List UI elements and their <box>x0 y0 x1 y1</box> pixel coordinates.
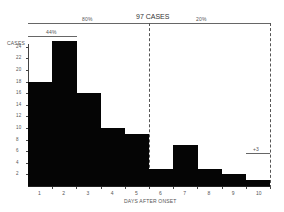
bar-day-6 <box>149 169 174 186</box>
x-tick <box>270 187 271 189</box>
bar-day-4 <box>101 128 126 186</box>
span-arrow-44 <box>28 36 77 37</box>
y-tick <box>26 47 29 48</box>
pct-80-label: 80% <box>82 16 93 22</box>
pct-44-label: 44% <box>46 29 57 35</box>
x-tick-label: 5 <box>135 190 138 196</box>
divider-right <box>270 23 271 188</box>
x-axis-label: DAYS AFTER ONSET <box>124 198 177 204</box>
y-tick-label: 6 <box>16 148 19 153</box>
histogram-chart: 80% 97 CASES 20% 44% +3 CASES DAYS AFTER… <box>0 0 284 212</box>
y-tick-label: 22 <box>16 55 21 60</box>
y-tick-label: 20 <box>16 67 21 72</box>
bar-day-3 <box>76 93 101 186</box>
extra-arrow <box>246 153 270 154</box>
bar-day-2 <box>52 41 77 186</box>
x-tick <box>222 187 223 189</box>
span-arrow-80 <box>28 23 149 24</box>
x-tick-label: 8 <box>208 190 211 196</box>
y-tick-label: 16 <box>16 90 21 95</box>
x-tick <box>149 187 150 189</box>
x-tick <box>197 187 198 189</box>
x-tick-label: 10 <box>256 190 262 196</box>
y-tick-label: 4 <box>16 160 19 165</box>
bar-day-10 <box>246 180 271 186</box>
extra-cases-label: +3 <box>253 146 259 152</box>
y-tick-label: 12 <box>16 113 21 118</box>
y-tick-label: 24 <box>16 44 21 49</box>
x-tick <box>101 187 102 189</box>
x-tick-label: 6 <box>159 190 162 196</box>
y-tick-label: 14 <box>16 102 21 107</box>
x-tick-label: 4 <box>111 190 114 196</box>
x-tick-label: 1 <box>38 190 41 196</box>
y-tick-label: 2 <box>16 171 19 176</box>
x-tick-label: 3 <box>87 190 90 196</box>
x-tick <box>76 187 77 189</box>
x-tick-label: 7 <box>183 190 186 196</box>
x-tick-label: 2 <box>62 190 65 196</box>
chart-title: 97 CASES <box>136 13 169 20</box>
y-tick <box>26 70 29 71</box>
bar-day-1 <box>28 82 53 186</box>
bar-day-9 <box>222 174 247 186</box>
x-tick <box>52 187 53 189</box>
x-tick <box>125 187 126 189</box>
y-tick-label: 8 <box>16 137 19 142</box>
x-tick <box>173 187 174 189</box>
y-tick-label: 10 <box>16 125 21 130</box>
x-tick-label: 9 <box>232 190 235 196</box>
y-tick-label: 18 <box>16 79 21 84</box>
bar-day-8 <box>197 169 222 186</box>
y-tick <box>26 58 29 59</box>
pct-20-label: 20% <box>196 16 207 22</box>
bar-day-7 <box>173 145 198 186</box>
span-arrow-20 <box>149 23 270 24</box>
bar-day-5 <box>125 134 150 186</box>
x-tick <box>246 187 247 189</box>
